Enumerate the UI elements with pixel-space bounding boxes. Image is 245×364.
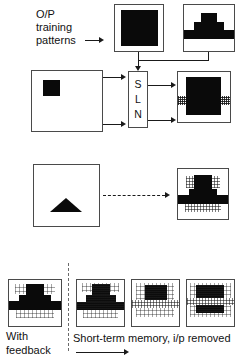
recall-dashed-arrow [165,192,170,198]
sln-letter-l: L [129,94,147,105]
pattern-join-wire [138,60,209,61]
op-training-label-line1: O/P [36,8,55,21]
input-triangle-glyph [50,198,82,212]
memory-frame-0 [8,279,62,327]
input-upper-arrow [121,74,126,80]
sequence-progress-arrow-head [124,349,129,355]
frame2-band [132,300,179,308]
input-box-triangle [33,164,100,227]
op-training-label-line3: patterns [36,34,76,47]
input-upper-wire [103,77,121,78]
input-small-square-glyph [43,80,60,96]
with-feedback-caption-line1: With [6,330,28,343]
sln-letter-n: N [129,109,147,120]
frame0-step-base [9,301,61,310]
output-lower-arrow [171,117,176,123]
figure-canvas: O/P training patterns S L N [0,0,245,364]
training-pattern-solid-square [114,4,164,52]
frame0-noise-bottom [16,310,54,318]
op-training-arrow-head [99,37,104,43]
training-pattern-stepped-pyramid [183,4,235,52]
op-training-label-line2: training [36,21,72,34]
pyramid-recall-step-base [178,195,228,204]
frame1-step-base [77,302,124,310]
memory-frame-2 [131,279,180,327]
output-upper-wire [148,85,171,86]
output-upper-arrow [171,82,176,88]
frame1-step-top [92,284,110,295]
input-lower-arrow [121,121,126,127]
sln-network-box: S L N [128,71,148,128]
pyramid-step-middle [194,22,224,30]
op-training-arrow-shaft [85,40,99,41]
short-term-memory-caption: Short-term memory, i/p removed [73,332,231,345]
frame1-step-middle [86,295,116,302]
pyramid-recall-step-top [194,175,212,189]
with-feedback-caption-line2: feedback [6,344,51,357]
recall-dashed-wire [103,195,165,196]
memory-frame-1 [76,279,125,327]
recall-solid-square-glyph [186,77,221,115]
input-lower-wire [103,124,121,125]
input-box-square [31,70,103,132]
pyramid-step-top [201,13,217,22]
output-box-pyramid-recall [177,168,229,220]
sequence-progress-arrow-shaft [76,352,124,353]
output-lower-wire [148,120,171,121]
section-divider [68,263,69,351]
frame1-noise-bottom [83,310,118,318]
pyramid-step-base [184,30,234,39]
frame3-band [187,298,234,305]
pyramid-recall-noise-bottom [185,204,221,212]
pyramid-recall-noise-right [211,176,220,188]
solid-square-glyph [121,10,158,46]
output-box-square-recall [177,71,231,123]
memory-frame-3 [186,279,235,327]
frame0-step-top [26,284,44,295]
sln-letter-s: S [129,79,147,90]
